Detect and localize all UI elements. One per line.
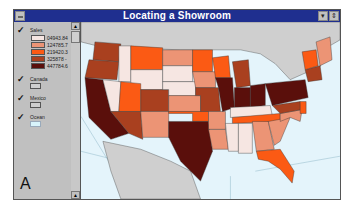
class-label-2: 124785.7 bbox=[47, 42, 68, 48]
window-title: Locating a Showroom bbox=[14, 10, 340, 22]
swatch-canada bbox=[30, 83, 41, 89]
legend-panel: ✓ Sales 04943.84 124785.7 219420.3 32587… bbox=[14, 22, 72, 199]
class-label-5: 447784.6 bbox=[47, 63, 68, 69]
sales-visibility-check[interactable]: ✓ bbox=[17, 26, 25, 35]
legend-scrollbar[interactable]: ▲ ▲ bbox=[71, 22, 81, 199]
legend-label-canada: Canada bbox=[30, 76, 48, 82]
mexico-visibility-check[interactable]: ✓ bbox=[17, 94, 25, 103]
map-window: Locating a Showroom ▾ ⇕ ✓ Sales 04943.84… bbox=[13, 9, 341, 200]
ocean-visibility-check[interactable]: ✓ bbox=[17, 113, 25, 122]
swatch-class-3 bbox=[31, 49, 45, 55]
swatch-class-1 bbox=[31, 35, 45, 41]
scroll-down-button[interactable]: ▲ bbox=[71, 191, 80, 199]
maximize-button[interactable]: ⇕ bbox=[329, 11, 339, 21]
legend-label-sales: Sales bbox=[30, 27, 43, 33]
us-sales-map bbox=[81, 22, 340, 199]
class-label-4: 325878 - bbox=[47, 56, 67, 62]
map-canvas[interactable] bbox=[81, 22, 340, 199]
swatch-class-4 bbox=[31, 56, 45, 62]
legend-group-sales: ✓ Sales 04943.84 124785.7 219420.3 32587… bbox=[17, 26, 71, 72]
legend-group-ocean: ✓ Ocean bbox=[17, 113, 71, 129]
class-label-1: 04943.84 bbox=[47, 35, 68, 41]
minimize-button[interactable]: ▾ bbox=[318, 11, 328, 21]
legend-label-mexico: Mexico bbox=[30, 95, 46, 101]
title-bar[interactable]: Locating a Showroom ▾ ⇕ bbox=[14, 10, 340, 22]
swatch-class-5 bbox=[31, 63, 45, 69]
scroll-thumb[interactable] bbox=[71, 31, 80, 43]
scroll-up-button[interactable]: ▲ bbox=[71, 22, 80, 30]
legend-group-canada: ✓ Canada bbox=[17, 75, 71, 91]
panel-letter: A bbox=[20, 175, 31, 193]
canada-visibility-check[interactable]: ✓ bbox=[17, 75, 25, 84]
swatch-class-2 bbox=[31, 42, 45, 48]
legend-label-ocean: Ocean bbox=[30, 114, 45, 120]
swatch-mexico bbox=[30, 102, 41, 108]
class-label-3: 219420.3 bbox=[47, 49, 68, 55]
swatch-ocean bbox=[30, 121, 41, 127]
legend-group-mexico: ✓ Mexico bbox=[17, 94, 71, 110]
